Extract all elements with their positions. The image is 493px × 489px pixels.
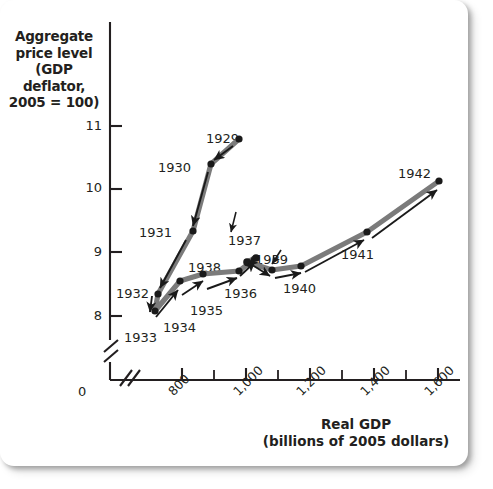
data-point-1930 [207, 160, 214, 167]
leader-arrow-1937 [231, 212, 236, 232]
direction-arrow-1934-1935 [182, 281, 203, 295]
leader-arrow-1939 [272, 250, 281, 264]
direction-arrow-1939-1940 [275, 273, 301, 278]
data-point-1940 [297, 262, 304, 269]
chart-svg [0, 0, 468, 466]
data-point-1939 [268, 266, 275, 273]
direction-arrow-1930-1931 [193, 172, 208, 226]
data-point-1931 [189, 227, 196, 234]
direction-arrow-1940-1941 [305, 240, 364, 272]
data-point-1941 [363, 228, 370, 235]
data-point-1942 [435, 177, 442, 184]
data-point-1934 [176, 277, 183, 284]
chart-plot-area: Aggregate price level (GDP deflator, 200… [0, 0, 468, 466]
direction-arrow-1941-1942 [372, 190, 437, 238]
figure-card: Aggregate price level (GDP deflator, 200… [0, 0, 468, 466]
x-axis-break-icon [120, 370, 140, 386]
data-point-1929 [235, 135, 242, 142]
y-axis-break-icon [104, 340, 118, 362]
data-point-1935 [199, 270, 206, 277]
data-point-1932 [154, 290, 161, 297]
direction-arrow-1929-1930 [214, 146, 233, 160]
data-point-1933 [151, 307, 158, 314]
direction-arrow-1935-1936 [207, 278, 237, 289]
